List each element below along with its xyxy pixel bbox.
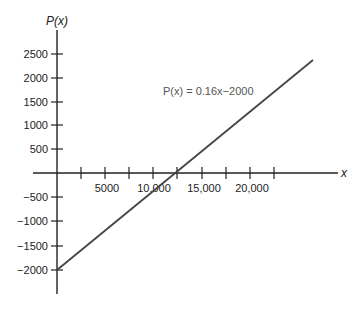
svg-text:5000: 5000 <box>95 182 119 194</box>
svg-text:−2000: −2000 <box>17 264 48 276</box>
x-tick-labels: 5000 10,000 15,000 20,000 <box>95 182 269 194</box>
svg-text:2000: 2000 <box>24 72 48 84</box>
y-tick-labels: 2500 2000 1500 1000 500 −500 −1000 −1500… <box>17 48 48 276</box>
svg-text:−1000: −1000 <box>17 215 48 227</box>
svg-text:10,000: 10,000 <box>137 182 171 194</box>
svg-text:500: 500 <box>30 143 48 155</box>
svg-text:−1500: −1500 <box>17 240 48 252</box>
x-axis-label: x <box>340 166 348 180</box>
svg-text:2500: 2500 <box>24 48 48 60</box>
svg-text:15,000: 15,000 <box>187 182 221 194</box>
svg-text:−500: −500 <box>23 191 48 203</box>
line-chart: P(x) x 2500 2000 1500 1000 500 −500 −100… <box>0 0 360 309</box>
y-axis-label: P(x) <box>46 14 68 28</box>
svg-text:1000: 1000 <box>24 119 48 131</box>
equation-annotation: P(x) = 0.16x−2000 <box>163 85 254 97</box>
svg-text:1500: 1500 <box>24 96 48 108</box>
svg-text:20,000: 20,000 <box>235 182 269 194</box>
